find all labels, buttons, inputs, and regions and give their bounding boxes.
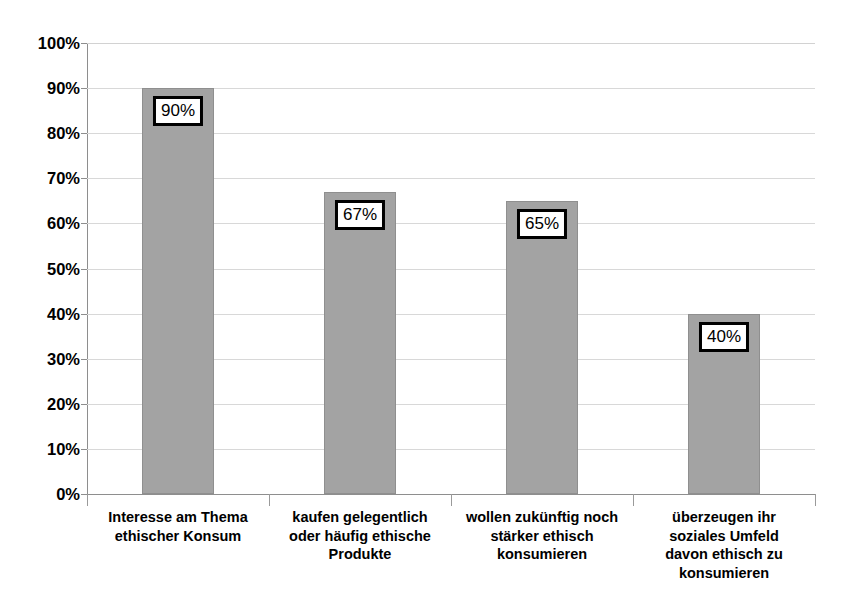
y-axis-tick-label: 80% xyxy=(6,125,80,142)
category-label-line: soziales Umfeld xyxy=(669,528,779,544)
y-axis-tick-mark xyxy=(81,178,87,179)
y-axis-tick-label: 100% xyxy=(6,35,80,52)
category-label-line: überzeugen ihr xyxy=(672,509,776,525)
y-axis-tick-label: 20% xyxy=(6,396,80,413)
bar xyxy=(506,201,578,494)
y-axis-tick-label: 30% xyxy=(6,350,80,367)
y-axis-tick-mark xyxy=(81,314,87,315)
bar-chart-figure: 100%90%80%70%60%50%40%30%20%10%0% 90%67%… xyxy=(0,0,841,606)
category-label-line: kaufen gelegentlich xyxy=(292,509,427,525)
bar-data-label: 40% xyxy=(699,322,749,352)
y-axis-tick-label: 10% xyxy=(6,441,80,458)
bar xyxy=(142,88,214,494)
y-axis-tick-label: 90% xyxy=(6,80,80,97)
category-separator xyxy=(815,494,816,506)
x-axis-labels: Interesse am Themaethischer Konsumkaufen… xyxy=(87,508,815,603)
category-separator xyxy=(451,494,452,506)
y-axis-labels: 100%90%80%70%60%50%40%30%20%10%0% xyxy=(0,0,80,606)
gridline-100 xyxy=(87,43,815,44)
y-axis-tick-label: 50% xyxy=(6,260,80,277)
category-label-line: oder häufig ethische xyxy=(289,528,431,544)
category-label-line: wollen zukünftig noch xyxy=(466,509,618,525)
bar-data-label: 65% xyxy=(517,209,567,239)
x-axis-category-label: wollen zukünftig nochstärker ethischkons… xyxy=(455,508,629,564)
y-axis-tick-mark xyxy=(81,223,87,224)
y-axis-tick-label: 0% xyxy=(6,486,80,503)
y-axis-tick-mark xyxy=(81,133,87,134)
y-axis-tick-mark xyxy=(81,404,87,405)
x-axis-category-label: Interesse am Themaethischer Konsum xyxy=(91,508,265,545)
category-label-line: Produkte xyxy=(329,546,392,562)
y-axis-tick-label: 60% xyxy=(6,215,80,232)
y-axis-tick-mark xyxy=(81,449,87,450)
bar-data-label: 67% xyxy=(335,200,385,230)
y-axis-tick-mark xyxy=(81,269,87,270)
category-separator xyxy=(87,494,88,506)
category-label-line: konsumieren xyxy=(679,565,769,581)
y-axis-tick-mark xyxy=(81,359,87,360)
y-axis-tick-mark xyxy=(81,88,87,89)
category-label-line: davon ethisch zu xyxy=(665,546,783,562)
category-label-line: ethischer Konsum xyxy=(115,528,242,544)
bar xyxy=(324,192,396,494)
y-axis-tick-label: 70% xyxy=(6,170,80,187)
x-axis-category-label: überzeugen ihrsoziales Umfelddavon ethis… xyxy=(637,508,811,582)
category-separator xyxy=(633,494,634,506)
x-axis-category-label: kaufen gelegentlichoder häufig ethischeP… xyxy=(273,508,447,564)
category-label-line: Interesse am Thema xyxy=(108,509,247,525)
category-separator xyxy=(269,494,270,506)
y-axis-tick-label: 40% xyxy=(6,305,80,322)
category-label-line: stärker ethisch xyxy=(490,528,593,544)
y-axis-tick-mark xyxy=(81,43,87,44)
category-label-line: konsumieren xyxy=(497,546,587,562)
plot-area: 90%67%65%40% xyxy=(87,43,815,494)
chart-title-clipped xyxy=(0,0,841,9)
bar-data-label: 90% xyxy=(153,96,203,126)
